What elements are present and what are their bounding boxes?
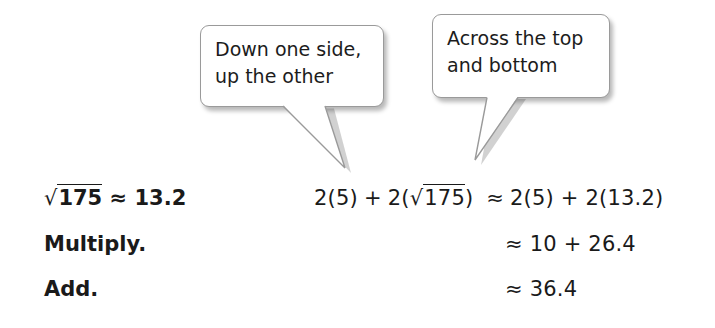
term-close: ) (465, 186, 473, 210)
term-2-times-5: 2(5) (314, 186, 358, 210)
step-1-expression: 2(5)+2(√175) ≈2(5) + 2(13.2) (314, 186, 663, 210)
step-3-value: 36.4 (530, 277, 578, 301)
step-1-label: √175 ≈ 13.2 (44, 186, 186, 210)
radical-sign: √ (410, 186, 424, 210)
plus-sign: + (358, 186, 388, 210)
approx-sign: ≈ (505, 277, 523, 301)
callout-down-one-side: Down one side, up the other (200, 25, 384, 107)
step-2-label: Multiply. (44, 232, 146, 256)
callout-1-tail (283, 105, 351, 173)
step-3-label: Add. (44, 277, 98, 301)
approx-value: ≈ 13.2 (102, 186, 186, 210)
callout-text-line: Down one side, (215, 36, 371, 63)
callout-2-tail (475, 97, 526, 166)
square-root: √175 (44, 186, 102, 210)
callout-text-line: Across the top (447, 25, 597, 52)
step-2-value: 10 + 26.4 (530, 232, 636, 256)
callout-text-line: up the other (215, 63, 371, 90)
radical-sign: √ (44, 186, 57, 210)
step-1-rhs: 2(5) + 2(13.2) (510, 186, 663, 210)
radicand: 175 (57, 184, 102, 210)
step-3-expression: ≈ 36.4 (505, 277, 577, 301)
radicand: 175 (423, 184, 465, 210)
callout-text-line: and bottom (447, 52, 597, 79)
step-2-expression: ≈ 10 + 26.4 (505, 232, 636, 256)
term-open: 2( (388, 186, 410, 210)
callout-across-top-bottom: Across the top and bottom (432, 14, 610, 98)
approx-sign: ≈ (480, 186, 510, 210)
approx-sign: ≈ (505, 232, 523, 256)
square-root: √175 (410, 186, 465, 210)
